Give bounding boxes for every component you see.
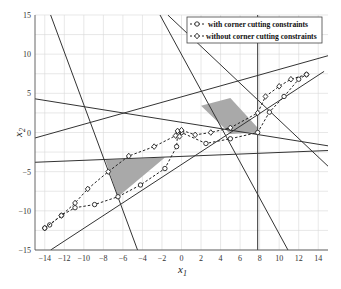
y-axis-label: x2 (12, 128, 27, 138)
svg-text:8: 8 (258, 254, 262, 263)
circle-marker-icon (195, 22, 199, 26)
series-without-corner-cutting (42, 72, 309, 231)
svg-text:2: 2 (199, 254, 203, 263)
svg-text:10: 10 (275, 254, 283, 263)
x-axis-label: x1 (177, 263, 187, 278)
svg-text:−10: −10 (78, 254, 91, 263)
svg-text:−15: −15 (18, 246, 31, 255)
legend: with corner cutting constraints without … (187, 17, 322, 43)
svg-text:−10: −10 (18, 207, 31, 216)
svg-text:5: 5 (27, 89, 31, 98)
svg-text:0: 0 (27, 129, 31, 138)
chart-canvas: −14−12−10−8−6−4−202468101214 −15−10−5051… (0, 0, 341, 289)
legend-label: with corner cutting constraints (208, 20, 308, 29)
legend-item-with-corner-cutting: with corner cutting constraints (190, 20, 308, 29)
x-tick-labels: −14−12−10−8−6−4−202468101214 (39, 254, 323, 263)
legend-label: without corner cutting constraints (206, 32, 317, 41)
legend-item-without-corner-cutting: without corner cutting constraints (190, 32, 317, 41)
svg-text:−2: −2 (158, 254, 167, 263)
region-left (105, 158, 165, 197)
svg-text:6: 6 (238, 254, 242, 263)
svg-text:−12: −12 (58, 254, 71, 263)
svg-text:−8: −8 (99, 254, 108, 263)
svg-text:10: 10 (23, 50, 31, 59)
svg-text:−14: −14 (39, 254, 52, 263)
svg-text:0: 0 (180, 254, 184, 263)
svg-text:−4: −4 (138, 254, 147, 263)
series-with-corner-cutting (43, 72, 309, 230)
svg-text:14: 14 (314, 254, 322, 263)
svg-text:−6: −6 (119, 254, 128, 263)
svg-text:12: 12 (295, 254, 303, 263)
svg-text:−5: −5 (22, 168, 31, 177)
svg-text:15: 15 (23, 11, 31, 20)
svg-text:4: 4 (219, 254, 223, 263)
trajectory-series (42, 72, 309, 231)
